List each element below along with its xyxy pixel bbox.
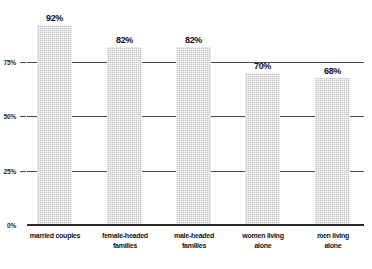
plot-area: 75% 50% 25% 0% 92% 82% 82% 7 [27,8,364,226]
x-label-line1-married-couples: married couples [30,232,80,239]
bar-female-headed-families[interactable] [107,47,142,226]
y-tick-label-75: 75% [0,59,16,66]
y-tick-mark-75 [20,62,26,63]
bar-value-married-couples: 92% [23,13,86,23]
bars-layer: 92% 82% 82% 70% 68% [27,8,364,226]
bar-value-female-headed-families: 82% [93,35,156,45]
bar-value-women-living-alone: 70% [231,61,294,71]
y-tick-label-50: 50% [0,113,16,120]
bar-chart: 75% 50% 25% 0% 92% 82% 82% 7 [0,0,372,269]
y-tick-label-25: 25% [0,168,16,175]
x-axis-labels: married couples female-headed families m… [27,231,364,265]
bar-men-living-alone[interactable] [315,78,350,226]
x-label-line1-women-living-alone: women living [242,232,283,239]
x-label-line1-men-living-alone: men living [317,232,349,239]
y-tick-mark-25 [20,171,26,172]
y-tick-label-0: 0% [0,222,16,229]
bar-women-living-alone[interactable] [245,73,280,226]
x-label-line2-men-living-alone: alone [291,241,372,251]
bar-male-headed-families[interactable] [176,47,211,226]
y-tick-mark-50 [20,116,26,117]
x-label-line1-male-headed-families: male-headed [174,232,214,239]
x-label-men-living-alone: men living alone [291,231,372,251]
x-label-line1-female-headed-families: female-headed [102,232,148,239]
bar-value-male-headed-families: 82% [162,35,225,45]
bar-married-couples[interactable] [37,25,72,226]
x-axis-baseline [27,224,364,226]
bar-value-men-living-alone: 68% [301,66,364,76]
